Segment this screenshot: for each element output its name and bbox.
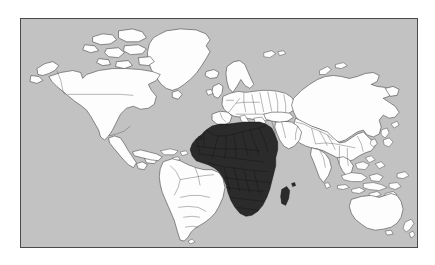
page-root — [0, 0, 435, 265]
world-map-figure — [20, 18, 418, 248]
world-map-svg[interactable] — [21, 19, 417, 247]
